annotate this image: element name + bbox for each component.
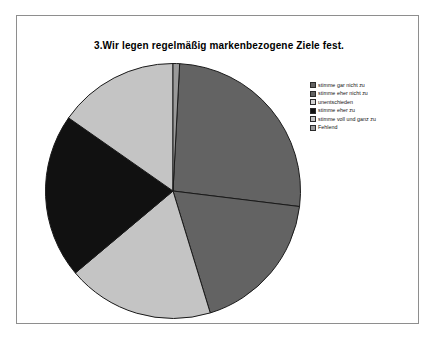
legend-item-label: stimme voll und ganz zu [318,116,376,123]
legend-item-label: Fehlend [318,124,338,131]
legend-color-swatch [310,108,316,114]
legend-item: stimme eher nicht zu [310,90,414,98]
legend-item-label: stimme eher zu [318,107,355,114]
pie-svg [44,62,302,320]
pie-chart-figure: 3.Wir legen regelmäßig markenbezogene Zi… [0,0,438,340]
legend-color-swatch [310,99,316,105]
legend-item: stimme gar nicht zu [310,81,414,89]
legend-item-label: unentschieden [318,99,353,106]
chart-legend: stimme gar nicht zustimme eher nicht zuu… [310,81,414,133]
legend-color-swatch [310,125,316,131]
legend-item-label: stimme eher nicht zu [318,90,368,97]
legend-item: Fehlend [310,124,414,132]
legend-color-swatch [310,91,316,97]
pie-plot-area [44,62,302,320]
legend-item: unentschieden [310,98,414,106]
legend-item: stimme eher zu [310,107,414,115]
legend-color-swatch [310,82,316,88]
pie-slices-group [45,63,300,318]
chart-title: 3.Wir legen regelmäßig markenbezogene Zi… [0,40,438,51]
legend-color-swatch [310,116,316,122]
pie-slice [173,64,301,207]
legend-item: stimme voll und ganz zu [310,115,414,123]
legend-item-label: stimme gar nicht zu [318,82,365,89]
